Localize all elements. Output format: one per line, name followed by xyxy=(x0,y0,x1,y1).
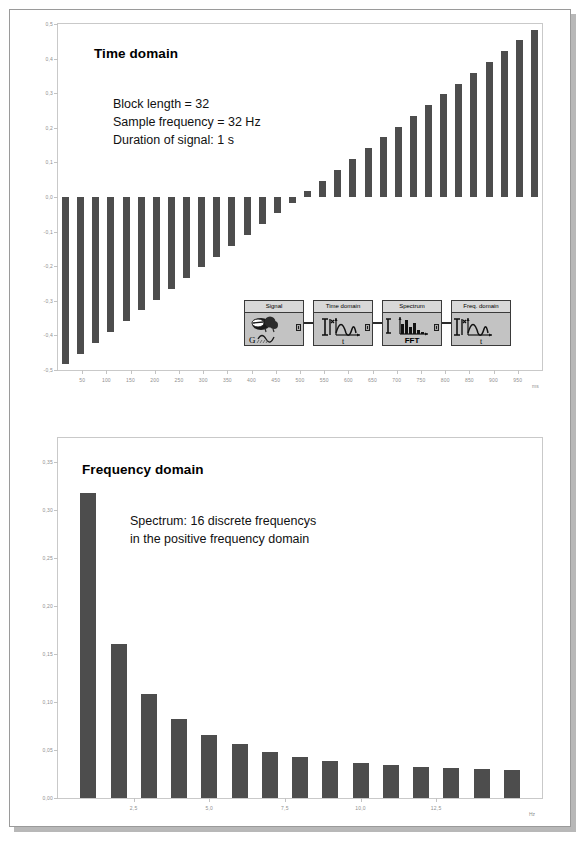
y-tick-mark xyxy=(54,301,58,302)
x-tick-mark xyxy=(300,370,301,374)
bar xyxy=(322,761,338,798)
bar xyxy=(228,197,235,246)
bar xyxy=(410,116,417,197)
time-domain-title: Time domain xyxy=(94,46,178,61)
y-tick-mark xyxy=(54,93,58,94)
y-tick-label: 0,15 xyxy=(25,651,53,657)
y-tick-mark xyxy=(54,750,58,751)
x-tick-label: 12,5 xyxy=(422,805,450,811)
y-tick-mark xyxy=(54,197,58,198)
y-tick-label: -0,5 xyxy=(25,367,53,373)
bar xyxy=(486,62,493,197)
bar xyxy=(531,30,538,197)
bar xyxy=(259,197,266,224)
y-tick-mark xyxy=(54,558,58,559)
bar xyxy=(138,197,145,310)
x-tick-mark xyxy=(131,370,132,374)
y-tick-mark xyxy=(54,128,58,129)
flow-block-signal-caption: G xyxy=(249,335,256,345)
x-tick-mark xyxy=(209,798,210,802)
x-tick-mark xyxy=(518,370,519,374)
bar xyxy=(304,191,311,197)
y-tick-label: -0,1 xyxy=(25,229,53,235)
flow-block-freq-domain[interactable]: Freq. domain t xyxy=(451,300,511,346)
bar xyxy=(198,197,205,267)
x-tick-mark xyxy=(469,370,470,374)
bar xyxy=(501,51,508,197)
y-tick-label: 0,00 xyxy=(25,795,53,801)
x-tick-label: 950 xyxy=(504,377,532,383)
slide-sheet: Time domain Block length = 32 Sample fre… xyxy=(9,9,571,827)
y-tick-mark xyxy=(54,335,58,336)
y-tick-mark xyxy=(54,702,58,703)
flow-block-time-domain[interactable]: Time domain t xyxy=(313,300,373,346)
bar xyxy=(365,148,372,197)
signal-output-port[interactable] xyxy=(296,324,301,331)
fft-flow-diagram: Signal G Time domain xyxy=(244,300,511,346)
y-tick-label: 0,0 xyxy=(25,194,53,200)
flow-block-time-domain-title: Time domain xyxy=(314,301,372,313)
bar xyxy=(153,197,160,300)
x-tick-mark xyxy=(276,370,277,374)
bar xyxy=(123,197,130,321)
y-tick-label: 0,10 xyxy=(25,699,53,705)
x-tick-mark xyxy=(106,370,107,374)
bar xyxy=(443,768,459,798)
y-tick-label: 0,30 xyxy=(25,507,53,513)
frequency-domain-plot-frame xyxy=(57,437,543,799)
x-tick-mark xyxy=(203,370,204,374)
x-tick-mark xyxy=(285,798,286,802)
y-tick-mark xyxy=(54,370,58,371)
y-tick-mark xyxy=(54,510,58,511)
bar xyxy=(395,127,402,197)
frequency-domain-annotation-line-2: in the positive frequency domain xyxy=(130,531,309,548)
bar xyxy=(171,719,187,798)
bar xyxy=(319,181,326,197)
x-tick-mark xyxy=(494,370,495,374)
frequency-domain-title: Frequency domain xyxy=(82,462,204,477)
bar xyxy=(213,197,220,257)
y-tick-label: 0,05 xyxy=(25,747,53,753)
x-tick-label: 10,0 xyxy=(347,805,375,811)
y-tick-mark xyxy=(54,606,58,607)
bar xyxy=(141,694,157,798)
time-domain-annotation-line-2: Sample frequency = 32 Hz xyxy=(113,114,261,131)
bar xyxy=(334,170,341,197)
bar xyxy=(289,197,296,203)
bar xyxy=(413,767,429,798)
frequency-domain-annotation-line-1: Spectrum: 16 discrete frequencys xyxy=(130,513,316,530)
bar xyxy=(232,744,248,798)
x-tick-mark xyxy=(82,370,83,374)
bar xyxy=(92,197,99,343)
bar xyxy=(201,735,217,798)
bar xyxy=(504,770,520,798)
flow-block-signal-title: Signal xyxy=(245,301,303,313)
y-tick-label: 0,35 xyxy=(25,459,53,465)
time-domain-output-port[interactable] xyxy=(365,324,370,331)
flow-block-freq-domain-caption: t xyxy=(452,337,510,346)
flow-block-spectrum[interactable]: Spectrum FFT xyxy=(382,300,442,346)
flow-block-signal-body: G xyxy=(245,313,303,345)
spectrum-output-port[interactable] xyxy=(434,324,439,331)
flow-connector-3 xyxy=(442,322,451,324)
y-tick-mark xyxy=(54,266,58,267)
flow-connector-1 xyxy=(304,322,313,324)
flow-block-signal[interactable]: Signal G xyxy=(244,300,304,346)
y-tick-label: 0,4 xyxy=(25,56,53,62)
x-tick-mark xyxy=(324,370,325,374)
x-tick-mark xyxy=(155,370,156,374)
x-tick-label: 5,0 xyxy=(195,805,223,811)
bar xyxy=(292,757,308,798)
x-tick-mark xyxy=(421,370,422,374)
y-tick-mark xyxy=(54,462,58,463)
y-tick-label: -0,2 xyxy=(25,263,53,269)
bar xyxy=(440,94,447,197)
flow-block-freq-domain-body: t xyxy=(452,313,510,345)
y-tick-label: 0,1 xyxy=(25,159,53,165)
flow-block-spectrum-body: FFT xyxy=(383,313,441,345)
y-tick-mark xyxy=(54,654,58,655)
time-domain-x-unit: ms xyxy=(532,383,539,389)
x-tick-mark xyxy=(348,370,349,374)
bar xyxy=(380,137,387,197)
bar xyxy=(425,105,432,197)
